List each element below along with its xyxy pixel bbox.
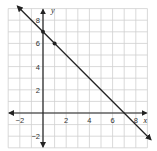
data-line	[17, 6, 150, 139]
x-axis-label: x	[143, 116, 148, 125]
y-tick-label: 2	[36, 86, 40, 95]
x-tick-label: 2	[64, 116, 68, 125]
y-tick-label: 8	[36, 16, 40, 25]
x-tick-label: 4	[87, 116, 91, 125]
y-axis-label: y	[50, 6, 55, 15]
y-tick-label: 4	[36, 63, 40, 72]
x-tick-label: −2	[16, 116, 25, 125]
x-tick-label: 6	[111, 116, 115, 125]
data-point	[53, 41, 57, 45]
y-tick-label: −2	[31, 132, 40, 141]
y-tick-label: 6	[36, 39, 40, 48]
coordinate-plane: −224688642−2xy	[0, 0, 157, 151]
data-point	[41, 30, 45, 34]
